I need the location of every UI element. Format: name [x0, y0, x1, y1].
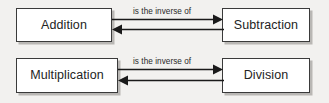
node-addition-label: Addition — [41, 19, 87, 32]
node-division[interactable]: Division — [222, 58, 310, 93]
edge-label-multiplication-division: is the inverse of — [133, 58, 191, 66]
node-subtraction-label: Subtraction — [234, 19, 298, 32]
arrow-left-row-2 — [118, 76, 224, 86]
node-addition[interactable]: Addition — [16, 8, 112, 42]
node-multiplication[interactable]: Multiplication — [16, 58, 118, 93]
node-division-label: Division — [244, 69, 289, 82]
node-subtraction[interactable]: Subtraction — [222, 8, 310, 42]
arrow-left-row-1 — [112, 25, 224, 35]
edge-label-addition-subtraction: is the inverse of — [133, 8, 191, 16]
node-multiplication-label: Multiplication — [30, 69, 104, 82]
diagram-canvas: Addition Subtraction is the inverse of M… — [0, 0, 329, 103]
